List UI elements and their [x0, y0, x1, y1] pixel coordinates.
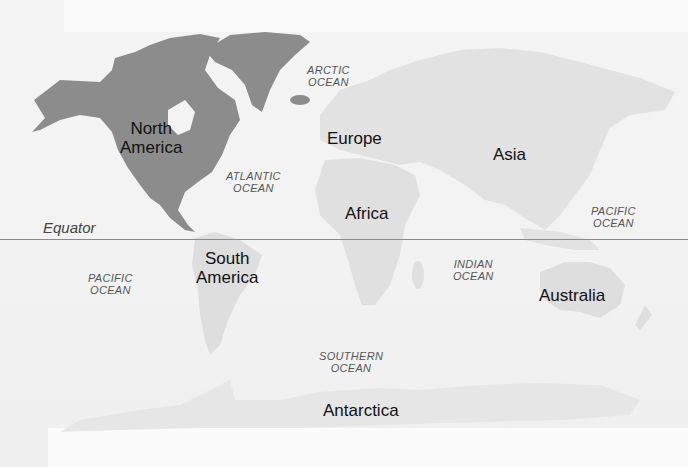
- world-map: Equator North America South America Euro…: [0, 0, 688, 467]
- ocean-label-arctic: ARCTIC OCEAN: [307, 64, 350, 88]
- ocean-label-atlantic: ATLANTIC OCEAN: [226, 170, 281, 194]
- continent-label-asia: Asia: [493, 146, 526, 165]
- africa-shape: [315, 158, 420, 305]
- ocean-label-pacific-west: PACIFIC OCEAN: [88, 272, 133, 296]
- continent-label-south-america: South America: [196, 250, 258, 287]
- continent-label-australia: Australia: [539, 287, 605, 306]
- continent-label-europe: Europe: [327, 130, 382, 149]
- ocean-label-southern: SOUTHERN OCEAN: [319, 350, 383, 374]
- continent-label-africa: Africa: [345, 205, 388, 224]
- continent-label-antarctica: Antarctica: [323, 402, 399, 421]
- ocean-label-indian: INDIAN OCEAN: [453, 258, 494, 282]
- continent-label-north-america: North America: [120, 120, 182, 157]
- equator-line: [0, 239, 688, 240]
- ocean-label-pacific-east: PACIFIC OCEAN: [591, 205, 636, 229]
- equator-label: Equator: [43, 220, 96, 237]
